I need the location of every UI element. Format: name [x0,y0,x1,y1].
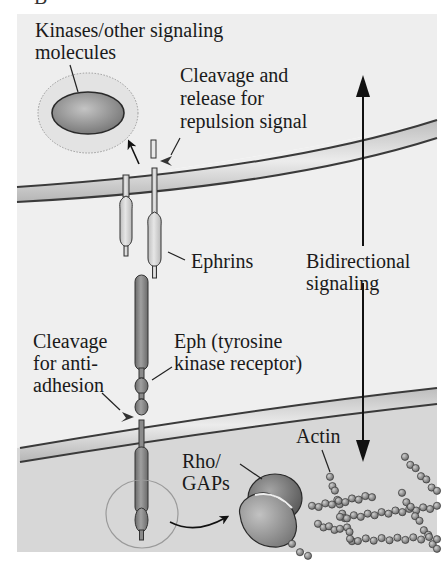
kinase-molecule [52,92,124,134]
cleaved-ephrin-fragment [151,140,156,158]
label-eph-line2: kinase receptor) [174,352,302,375]
label-cleavage-anti-line3: adhesion [33,374,104,397]
label-rho-line2: GAPs [182,472,230,495]
label-bidirectional-line1: Bidirectional [306,250,410,273]
label-cleavage-release-line3: repulsion signal [180,110,307,133]
label-kinases-line2: molecules [35,41,116,64]
ephrin-eph-signaling-diagram: B Kinases/other signaling molecules Clea… [0,0,443,563]
label-eph-line1: Eph (tyrosine [174,330,282,353]
label-actin: Actin [296,425,340,448]
label-bidirectional-line2: signaling [306,272,379,295]
label-cleavage-anti-line2: for anti- [33,352,98,375]
label-kinases-line1: Kinases/other signaling [35,19,223,42]
label-cleavage-anti-line1: Cleavage [33,330,107,353]
label-cleavage-release-line2: release for [180,87,264,110]
label-cleavage-release-line1: Cleavage and [180,64,288,87]
cropped-header-text: B [34,0,47,9]
label-ephrins: Ephrins [191,250,253,273]
label-rho-line1: Rho/ [182,450,221,473]
